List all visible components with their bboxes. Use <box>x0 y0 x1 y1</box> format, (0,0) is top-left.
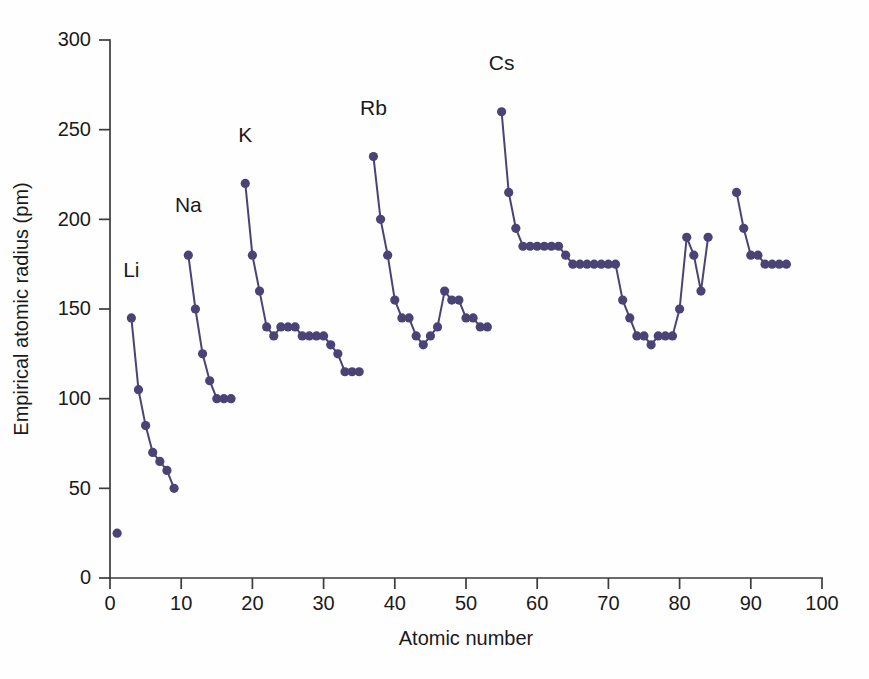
data-point <box>504 188 513 197</box>
data-point <box>469 313 478 322</box>
x-tick-label: 100 <box>805 592 838 614</box>
data-point <box>675 304 684 313</box>
series-period-4 <box>241 179 364 377</box>
data-point <box>255 286 264 295</box>
x-tick-label: 70 <box>597 592 619 614</box>
data-point <box>269 331 278 340</box>
x-tick-label: 30 <box>312 592 334 614</box>
series-label-cs: Cs <box>489 51 515 74</box>
data-point <box>134 385 143 394</box>
data-point <box>226 394 235 403</box>
data-point <box>326 340 335 349</box>
y-tick-label: 150 <box>58 297 91 319</box>
data-point <box>483 322 492 331</box>
data-point <box>162 466 171 475</box>
data-point <box>689 251 698 260</box>
series-hydrogen <box>113 529 122 538</box>
data-point <box>440 286 449 295</box>
series-label-li: Li <box>123 258 139 281</box>
series-period-3 <box>184 251 236 404</box>
data-point <box>668 331 677 340</box>
series-label-k: K <box>238 123 252 146</box>
data-point <box>426 331 435 340</box>
y-axis-title: Empirical atomic radius (pm) <box>10 182 32 435</box>
series-period-5 <box>369 152 492 350</box>
series-line <box>245 183 359 371</box>
data-point <box>696 286 705 295</box>
data-point <box>148 448 157 457</box>
data-point <box>419 340 428 349</box>
data-series-group <box>113 107 791 538</box>
data-point <box>184 251 193 260</box>
data-point <box>241 179 250 188</box>
data-point <box>155 457 164 466</box>
data-point <box>333 349 342 358</box>
data-point <box>412 331 421 340</box>
x-tick-label: 80 <box>668 592 690 614</box>
x-tick-label: 0 <box>104 592 115 614</box>
data-point <box>198 349 207 358</box>
series-period-2 <box>127 313 179 493</box>
y-axis-ticks: 050100150200250300 <box>58 28 110 588</box>
x-tick-label: 50 <box>455 592 477 614</box>
data-point <box>169 484 178 493</box>
data-point <box>639 331 648 340</box>
x-axis-ticks: 0102030405060708090100 <box>104 578 838 614</box>
data-point <box>291 322 300 331</box>
x-tick-label: 90 <box>740 592 762 614</box>
data-point <box>732 188 741 197</box>
series-period-7 <box>732 188 791 269</box>
chart-canvas: 050100150200250300 010203040506070809010… <box>0 0 869 679</box>
series-label-rb: Rb <box>360 96 387 119</box>
y-tick-label: 250 <box>58 118 91 140</box>
data-point <box>782 260 791 269</box>
series-annotations: LiNaKRbCs <box>123 51 514 280</box>
data-point <box>127 313 136 322</box>
x-tick-label: 10 <box>170 592 192 614</box>
data-point <box>113 529 122 538</box>
data-point <box>554 242 563 251</box>
y-tick-label: 0 <box>80 566 91 588</box>
data-point <box>682 233 691 242</box>
data-point <box>319 331 328 340</box>
data-point <box>248 251 257 260</box>
data-point <box>390 295 399 304</box>
series-label-na: Na <box>175 193 202 216</box>
series-line <box>131 318 174 488</box>
data-point <box>355 367 364 376</box>
data-point <box>433 322 442 331</box>
series-period-6 <box>497 107 713 349</box>
data-point <box>625 313 634 322</box>
data-point <box>647 340 656 349</box>
data-point <box>369 152 378 161</box>
y-tick-label: 300 <box>58 28 91 50</box>
data-point <box>262 322 271 331</box>
y-tick-label: 50 <box>69 477 91 499</box>
data-point <box>703 233 712 242</box>
data-point <box>383 251 392 260</box>
data-point <box>454 295 463 304</box>
data-point <box>611 260 620 269</box>
y-tick-label: 200 <box>58 208 91 230</box>
data-point <box>141 421 150 430</box>
data-point <box>739 224 748 233</box>
data-point <box>561 251 570 260</box>
data-point <box>753 251 762 260</box>
data-point <box>376 215 385 224</box>
y-tick-label: 100 <box>58 387 91 409</box>
x-axis-title: Atomic number <box>399 627 534 649</box>
data-point <box>511 224 520 233</box>
x-tick-label: 60 <box>526 592 548 614</box>
x-tick-label: 20 <box>241 592 263 614</box>
atomic-radius-chart: 050100150200250300 010203040506070809010… <box>0 0 869 679</box>
data-point <box>404 313 413 322</box>
data-point <box>205 376 214 385</box>
data-point <box>497 107 506 116</box>
data-point <box>618 295 627 304</box>
data-point <box>191 304 200 313</box>
x-tick-label: 40 <box>384 592 406 614</box>
